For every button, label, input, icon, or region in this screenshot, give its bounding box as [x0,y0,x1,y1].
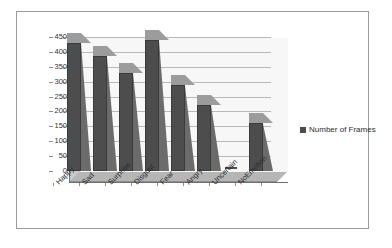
bar-side-face [133,63,143,171]
bar [171,75,185,171]
y-axis-tick-label: 200 [39,107,67,115]
bar-top-face [93,46,117,56]
bar-side-face [107,47,117,171]
y-axis-tick-label: 150 [39,122,67,130]
bar-top-face [67,33,91,43]
x-axis-tick [79,183,80,186]
x-axis-tick [157,183,158,186]
y-axis-tick-label: 250 [39,93,67,101]
bar [67,33,81,171]
y-axis-tick-label: 50 [39,152,67,160]
x-axis-tick [183,183,184,186]
legend-swatch-icon [300,127,306,133]
bar [197,95,211,171]
bar-front-face [119,73,133,171]
bar-front-face [93,56,107,171]
bar-side-face [185,76,195,171]
y-axis-tick-label: 300 [39,78,67,86]
x-axis-tick [235,183,236,186]
bar [119,63,133,171]
bar-front-face [67,43,81,171]
bar-top-face [171,75,195,85]
bar-side-face [81,33,91,171]
x-axis-tick [53,183,54,186]
bar-top-face [197,95,221,105]
y-axis-tick-label: 400 [39,48,67,56]
y-axis-tick-label: 100 [39,137,67,145]
legend-label: Number of Frames [309,125,376,134]
bar [145,30,159,171]
bar [93,46,107,171]
bar-side-face [211,95,221,171]
bar-top-face [145,30,169,40]
bar-side-face [159,30,169,171]
chart-frame: 050100150200250300350400450 HappySadSurp… [16,11,369,229]
bar-top-face [119,63,143,73]
x-axis-tick [105,183,106,186]
x-axis-line [69,182,288,183]
x-axis-tick [209,183,210,186]
x-axis-tick [261,183,262,186]
bar-top-face [249,113,273,123]
y-axis-tick-labels: 050100150200250300350400450 [37,12,67,248]
y-axis-tick-label: 450 [39,33,67,41]
chart-screenshot: 050100150200250300350400450 HappySadSurp… [0,0,392,248]
x-axis-tick [131,183,132,186]
chart-legend: Number of Frames [300,125,376,134]
bar-front-face [145,40,159,171]
bar-front-face [171,85,185,171]
y-axis-tick-label: 350 [39,63,67,71]
bar-front-face [197,105,211,171]
